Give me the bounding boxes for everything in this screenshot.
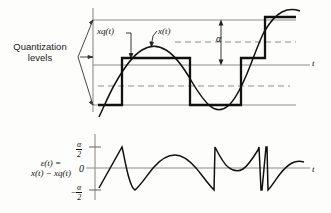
quantization-levels-line1: Quantization xyxy=(13,41,66,52)
fraction-neg-alpha-over-two: α 2 xyxy=(76,184,82,202)
quantization-levels-pointer-fan xyxy=(78,20,93,105)
fraction-numerator: α xyxy=(76,184,82,193)
fraction-denominator: 2 xyxy=(76,193,82,202)
ytick-label-positive: α 2 xyxy=(76,141,82,159)
error-label-line2: x(t) − xq(t) xyxy=(31,168,71,178)
ytick-label-negative: − α 2 xyxy=(71,184,82,202)
fraction-numerator: α xyxy=(76,141,82,150)
fraction-alpha-over-two: α 2 xyxy=(76,141,82,159)
quantization-levels-line2: levels xyxy=(28,52,52,63)
fraction-denominator: 2 xyxy=(76,150,82,159)
figure-container: Quantization levels xq(t) x(t) α t ε(t) … xyxy=(0,0,331,213)
alpha-step-size-label: α xyxy=(216,33,221,45)
ytick-label-zero: 0 xyxy=(79,163,84,175)
xq-leader-line xyxy=(126,33,133,58)
error-label-line1: ε(t) = xyxy=(41,158,61,168)
quantization-levels-label: Quantization levels xyxy=(2,42,78,64)
continuous-signal-curve xyxy=(99,10,300,117)
error-signal-label: ε(t) = x(t) − xq(t) xyxy=(14,158,88,179)
top-axis-t-label: t xyxy=(312,58,315,68)
quantized-staircase xyxy=(98,17,296,105)
xt-leader-line xyxy=(150,31,157,46)
top-plot-group xyxy=(78,8,310,117)
xq-signal-label: xq(t) xyxy=(97,26,114,36)
bottom-axis-t-label: t xyxy=(312,164,315,174)
xt-signal-label: x(t) xyxy=(158,26,171,36)
bottom-plot-group xyxy=(86,134,310,200)
